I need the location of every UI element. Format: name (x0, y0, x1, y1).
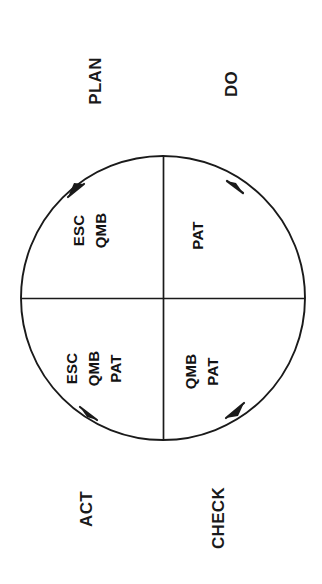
act-item-0-box: ESC (62, 345, 81, 391)
outer-label-plan: PLAN (87, 57, 105, 105)
outer-label-do: DO (223, 64, 241, 104)
plan-quadrant-items: ESC QMB (69, 207, 110, 253)
check-item-0: QMB (183, 364, 198, 379)
check-quadrant-items: QMB PAT (181, 348, 222, 394)
pdca-cycle-figure (0, 0, 322, 584)
plan-item-0-box: ESC (69, 207, 88, 253)
outer-label-act: ACT (78, 487, 96, 531)
plan-item-0: ESC (71, 223, 86, 238)
act-item-1: QMB (86, 361, 101, 376)
plan-item-1-box: QMB (91, 207, 110, 253)
act-item-0: ESC (64, 361, 79, 376)
act-item-2-box: PAT (106, 345, 125, 391)
diagram-page: PLAN DO ACT CHECK ESC QMB PAT ESC QMB PA… (0, 0, 322, 584)
check-item-0-box: QMB (181, 348, 200, 394)
do-item-0-box: PAT (188, 212, 207, 258)
plan-item-1: QMB (93, 223, 108, 238)
outer-label-check: CHECK (210, 485, 228, 551)
act-quadrant-items: ESC QMB PAT (62, 345, 125, 391)
act-item-1-box: QMB (84, 345, 103, 391)
act-item-2: PAT (108, 361, 123, 376)
do-quadrant-items: PAT (188, 212, 207, 258)
check-item-1: PAT (205, 364, 220, 379)
do-item-0: PAT (190, 228, 205, 243)
check-item-1-box: PAT (203, 348, 222, 394)
arrow-top-right-icon (227, 181, 243, 193)
